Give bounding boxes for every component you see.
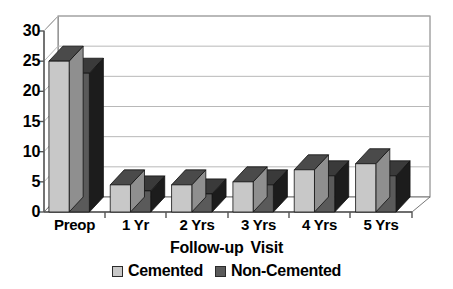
bar-5-yrs-cemented-front bbox=[356, 164, 376, 212]
legend-swatch-non-cemented-icon bbox=[215, 266, 226, 277]
y-tick-20: 20 bbox=[6, 83, 40, 99]
bar-4-yrs-cemented-front bbox=[294, 170, 314, 212]
y-tick-30: 30 bbox=[6, 23, 40, 39]
y-tick-25: 25 bbox=[6, 53, 40, 69]
y-tick-5: 5 bbox=[6, 174, 40, 190]
x-tick-1yr: 1 Yr bbox=[105, 216, 166, 234]
bar-chart: 30 25 20 15 10 5 0 Preop 1 Yr 2 Yrs 3 Yr… bbox=[0, 0, 453, 289]
legend-label-cemented: Cemented bbox=[128, 263, 203, 279]
bar-3-yrs-cemented-front bbox=[233, 182, 253, 212]
x-axis-title-part2: Visit bbox=[251, 239, 284, 256]
x-tick-preop: Preop bbox=[44, 216, 105, 234]
x-tick-3yrs: 3 Yrs bbox=[228, 216, 289, 234]
x-axis-title: Follow-upVisit bbox=[0, 239, 453, 257]
legend-label-non-cemented: Non-Cemented bbox=[231, 263, 341, 279]
y-tick-15: 15 bbox=[6, 114, 40, 130]
bar-preop-non-cemented-side bbox=[89, 58, 103, 212]
bar-preop-cemented-front bbox=[49, 61, 69, 212]
bar-2-yrs-cemented-front bbox=[172, 185, 192, 212]
legend-swatch-cemented-icon bbox=[112, 266, 123, 277]
bar-1-yr-cemented-front bbox=[110, 185, 130, 212]
x-tick-5yrs: 5 Yrs bbox=[350, 216, 412, 234]
bar-preop-cemented-side bbox=[69, 46, 83, 212]
x-tick-2yrs: 2 Yrs bbox=[166, 216, 228, 234]
x-tick-4yrs: 4 Yrs bbox=[289, 216, 350, 234]
chart-legend: Cemented Non-Cemented bbox=[0, 263, 453, 279]
legend-item-cemented[interactable]: Cemented bbox=[112, 263, 203, 279]
x-axis-labels: Preop 1 Yr 2 Yrs 3 Yrs 4 Yrs 5 Yrs bbox=[0, 216, 453, 240]
y-tick-10: 10 bbox=[6, 144, 40, 160]
legend-item-non-cemented[interactable]: Non-Cemented bbox=[215, 263, 341, 279]
x-axis-title-part1: Follow-up bbox=[170, 239, 244, 256]
